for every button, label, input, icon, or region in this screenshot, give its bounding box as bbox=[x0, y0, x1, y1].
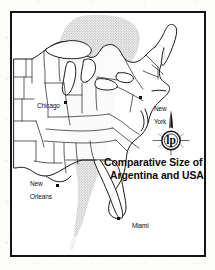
city-marker-new-orleans bbox=[56, 184, 59, 187]
map-frame: Chicago New York New Orleans Miami bbox=[10, 11, 206, 257]
city-marker-new-york bbox=[139, 96, 142, 99]
compass-rose: lp bbox=[151, 109, 191, 157]
map-title-line-1: Comparative Size of bbox=[104, 156, 206, 169]
city-marker-chicago bbox=[64, 101, 67, 104]
city-marker-miami bbox=[117, 217, 120, 220]
city-label-miami: Miami bbox=[122, 216, 149, 236]
map-title: Comparative Size of Argentina and USA bbox=[104, 156, 206, 182]
city-label-chicago: Chicago bbox=[27, 96, 60, 116]
lonely-planet-logo-icon bbox=[162, 131, 180, 149]
city-label-new-orleans: New Orleans bbox=[20, 174, 52, 207]
city-label-chicago-line-1: Chicago bbox=[37, 102, 60, 109]
city-label-new-orleans-line-1: New bbox=[30, 180, 43, 187]
city-label-miami-line-1: Miami bbox=[132, 222, 149, 229]
north-arrow-icon bbox=[169, 110, 173, 129]
map-title-line-2: Argentina and USA bbox=[104, 169, 206, 182]
figure-container: Chicago New York New Orleans Miami bbox=[0, 0, 215, 270]
city-label-new-orleans-line-2: Orleans bbox=[30, 193, 52, 200]
compass-rose-graphic bbox=[151, 109, 191, 157]
